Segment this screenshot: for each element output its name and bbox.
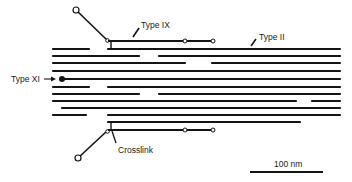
type-ix-node-icon bbox=[183, 128, 187, 132]
type-ix-pointer bbox=[133, 28, 139, 37]
type-xi-label: Type XI bbox=[11, 74, 40, 84]
type-ix-node-icon bbox=[211, 128, 215, 132]
type-ii-label: Type II bbox=[259, 32, 285, 42]
type-xi-head-icon bbox=[59, 76, 65, 82]
type-ii-pointer bbox=[251, 39, 256, 46]
type-xi-marker bbox=[59, 76, 65, 82]
type-ix-nc4-domain-icon bbox=[75, 155, 81, 161]
type-xi-arrow-head-icon bbox=[51, 77, 56, 82]
type-ix-label: Type IX bbox=[141, 20, 170, 30]
type-ix-node-icon bbox=[211, 39, 215, 43]
type-ix-node-icon bbox=[183, 39, 187, 43]
crosslink-pointer bbox=[112, 131, 116, 143]
collagen-diagram: Type IX Type II Type XI Crosslink 100 nm bbox=[0, 0, 352, 182]
type-ix-arm bbox=[78, 131, 107, 158]
scale-bar-label: 100 nm bbox=[274, 159, 302, 169]
type-ii-fibrils bbox=[53, 49, 340, 122]
type-ix-nc4-domain-icon bbox=[73, 7, 79, 13]
crosslink-label: Crosslink bbox=[118, 145, 154, 155]
type-ix-arm bbox=[76, 10, 107, 40]
type-ix-molecule-bottom bbox=[75, 122, 215, 161]
